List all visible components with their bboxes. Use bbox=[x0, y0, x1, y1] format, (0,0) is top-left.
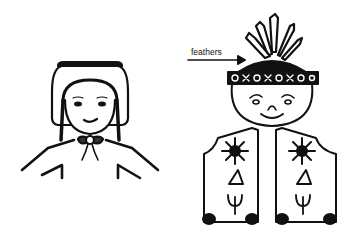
left-figure bbox=[22, 62, 158, 178]
right-figure bbox=[188, 14, 336, 224]
illustration bbox=[0, 0, 360, 239]
eye-icon bbox=[253, 100, 259, 104]
vest-left bbox=[204, 128, 258, 222]
vest-right bbox=[276, 128, 336, 222]
illustration-canvas: feathers bbox=[0, 0, 360, 239]
face-icon bbox=[232, 84, 313, 126]
sun-icon bbox=[222, 138, 248, 164]
face-icon bbox=[65, 100, 115, 134]
eye-icon bbox=[98, 102, 106, 107]
brooch-icon bbox=[86, 136, 94, 144]
eye-icon bbox=[285, 100, 291, 104]
eye-icon bbox=[74, 102, 82, 107]
feathers-label: feathers bbox=[191, 47, 222, 57]
shoulders-icon bbox=[22, 140, 74, 170]
sun-icon bbox=[289, 138, 315, 164]
feathers-icon bbox=[246, 14, 302, 60]
